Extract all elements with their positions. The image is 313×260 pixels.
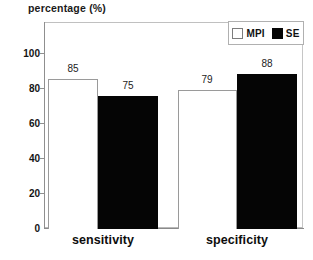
chart-legend: MPI SE [228, 21, 304, 45]
bar-value-specificity-mpi: 79 [201, 74, 212, 85]
bar-sensitivity-mpi [48, 79, 98, 229]
legend-swatch-mpi-icon [232, 28, 243, 39]
x-category-label-sensitivity: sensitivity [72, 233, 134, 247]
bar-value-specificity-se: 88 [261, 58, 272, 69]
legend-label-mpi: MPI [246, 28, 264, 39]
bar-chart-figure: percentage (%) 0 20 40 60 80 100 85 75 7… [0, 0, 313, 260]
y-tick-mark-100 [40, 53, 44, 54]
y-tick-label-60: 60 [12, 118, 40, 129]
y-tick-label-20: 20 [12, 188, 40, 199]
y-tick-label-0: 0 [12, 223, 40, 234]
y-tick-mark-40 [40, 158, 44, 159]
x-category-label-specificity: specificity [206, 233, 268, 247]
legend-swatch-se-icon [272, 28, 283, 39]
y-axis-tick-labels: 0 20 40 60 80 100 [8, 0, 40, 260]
bar-specificity-se [237, 74, 297, 229]
y-axis-line [44, 22, 45, 229]
y-tick-mark-20 [40, 193, 44, 194]
y-tick-label-40: 40 [12, 153, 40, 164]
y-tick-label-100: 100 [12, 48, 40, 59]
bar-specificity-mpi [178, 90, 237, 229]
bar-sensitivity-se [98, 96, 158, 229]
legend-entry-mpi: MPI [232, 28, 264, 39]
legend-label-se: SE [286, 28, 300, 39]
legend-entry-se: SE [272, 28, 300, 39]
bar-value-sensitivity-mpi: 85 [67, 63, 78, 74]
y-tick-label-80: 80 [12, 83, 40, 94]
y-tick-mark-60 [40, 123, 44, 124]
y-tick-mark-80 [40, 88, 44, 89]
bar-value-sensitivity-se: 75 [122, 80, 133, 91]
